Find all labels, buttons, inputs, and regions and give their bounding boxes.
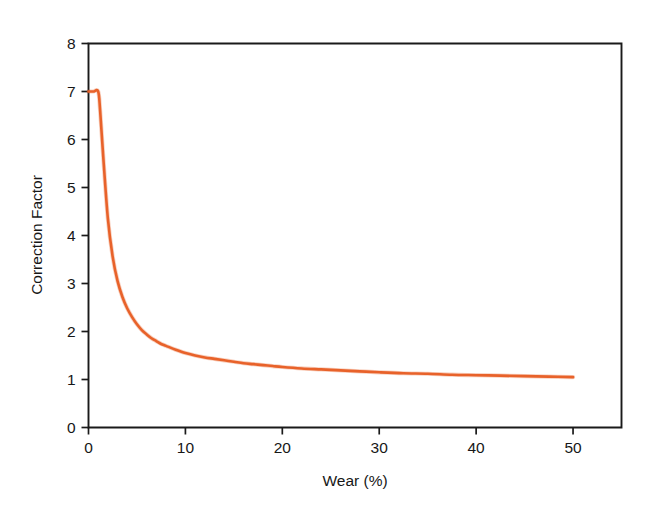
y-tick-label-1: 1 <box>67 371 76 388</box>
y-tick-label-3: 3 <box>67 275 76 292</box>
x-tick-label-40: 40 <box>468 439 486 456</box>
chart-figure: 01020304050 012345678 Wear (%) Correctio… <box>0 0 655 510</box>
y-tick-label-4: 4 <box>67 227 76 244</box>
x-tick-label-0: 0 <box>84 439 93 456</box>
x-axis-tick-labels: 01020304050 <box>84 439 582 456</box>
x-tick-label-10: 10 <box>177 439 195 456</box>
x-tick-label-50: 50 <box>564 439 582 456</box>
y-axis-title: Correction Factor <box>28 175 45 295</box>
x-axis-ticks <box>89 428 574 435</box>
correction-factor-line-chart: 01020304050 012345678 Wear (%) Correctio… <box>0 0 655 510</box>
y-axis-tick-labels: 012345678 <box>67 35 76 436</box>
data-series-line <box>89 90 574 377</box>
y-tick-label-5: 5 <box>67 179 76 196</box>
data-series-group <box>89 90 574 377</box>
x-axis-title: Wear (%) <box>322 472 387 489</box>
y-axis-ticks <box>82 44 89 428</box>
series-halo-0 <box>89 90 574 377</box>
y-tick-label-7: 7 <box>67 83 76 100</box>
x-tick-label-30: 30 <box>371 439 389 456</box>
y-tick-label-6: 6 <box>67 131 76 148</box>
y-tick-label-0: 0 <box>67 419 76 436</box>
y-tick-label-2: 2 <box>67 323 76 340</box>
y-tick-label-8: 8 <box>67 35 76 52</box>
x-tick-label-20: 20 <box>274 439 292 456</box>
